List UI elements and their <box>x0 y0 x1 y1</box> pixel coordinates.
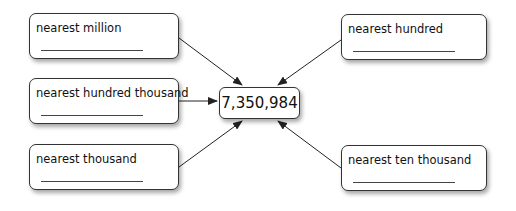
nearest-hundred-box: nearest hundred <box>341 14 487 60</box>
nearest-million-box: nearest million <box>29 13 179 59</box>
nearest-hundred-thousand-box: nearest hundred thousand <box>29 78 179 124</box>
box-label: nearest million <box>36 21 121 35</box>
answer-blank[interactable] <box>41 50 143 51</box>
answer-blank[interactable] <box>41 115 143 116</box>
box-label: nearest hundred thousand <box>36 86 189 100</box>
box-label: nearest hundred <box>348 22 443 36</box>
answer-blank[interactable] <box>353 51 455 52</box>
box-label: nearest thousand <box>36 152 137 166</box>
answer-blank[interactable] <box>353 182 455 183</box>
answer-blank[interactable] <box>41 181 143 182</box>
center-number-box: 7,350,984 <box>219 87 300 119</box>
nearest-thousand-box: nearest thousand <box>29 144 179 190</box>
nearest-ten-thousand-box: nearest ten thousand <box>341 145 487 191</box>
box-label: nearest ten thousand <box>348 153 471 167</box>
